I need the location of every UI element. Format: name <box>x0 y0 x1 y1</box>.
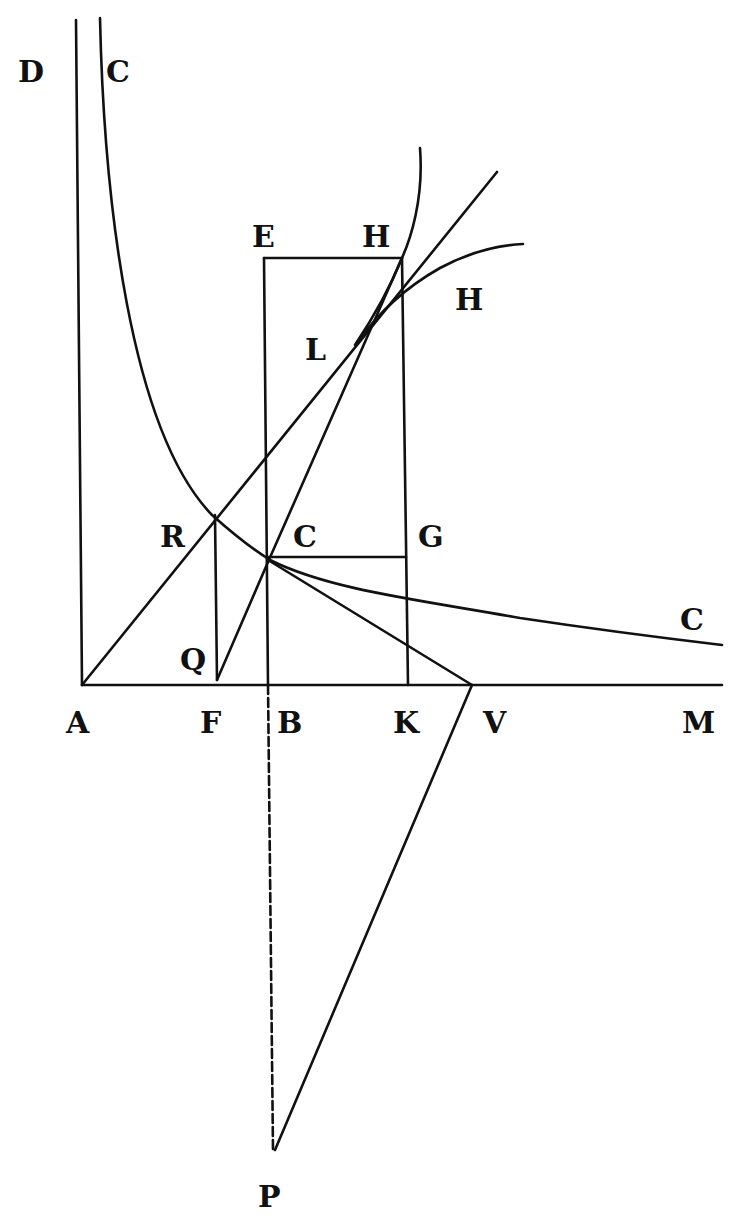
label-C-top: C <box>106 54 130 89</box>
label-C-mid: C <box>293 519 317 554</box>
label-F: F <box>200 705 221 740</box>
segment-RF <box>215 515 217 680</box>
label-V: V <box>482 705 507 740</box>
label-E: E <box>252 219 275 254</box>
hyperbola-curve-C <box>100 18 722 645</box>
label-B: B <box>277 705 302 740</box>
label-H-right: H <box>455 282 483 317</box>
segment-QC <box>217 562 268 680</box>
tangent-CV <box>268 560 472 685</box>
label-C-right: C <box>680 602 704 637</box>
line-A-R-L <box>82 172 497 685</box>
label-A: A <box>65 705 90 740</box>
segment-VP <box>275 685 472 1150</box>
label-L: L <box>305 332 326 367</box>
geometric-diagram: D C E H H L R C G C Q A F B K V M P <box>0 0 748 1229</box>
line-EB <box>264 258 268 685</box>
label-H-top: H <box>362 219 390 254</box>
label-P: P <box>258 1179 281 1214</box>
segment-HK <box>402 258 408 685</box>
label-G: G <box>418 519 444 554</box>
label-M: M <box>682 705 715 740</box>
line-C-H <box>268 258 402 562</box>
label-R: R <box>160 519 186 554</box>
label-Q: Q <box>180 642 206 677</box>
label-D: D <box>18 54 44 89</box>
line-BP-dashed <box>268 685 273 1150</box>
asymptote-AD <box>76 20 82 685</box>
label-K: K <box>393 705 420 740</box>
